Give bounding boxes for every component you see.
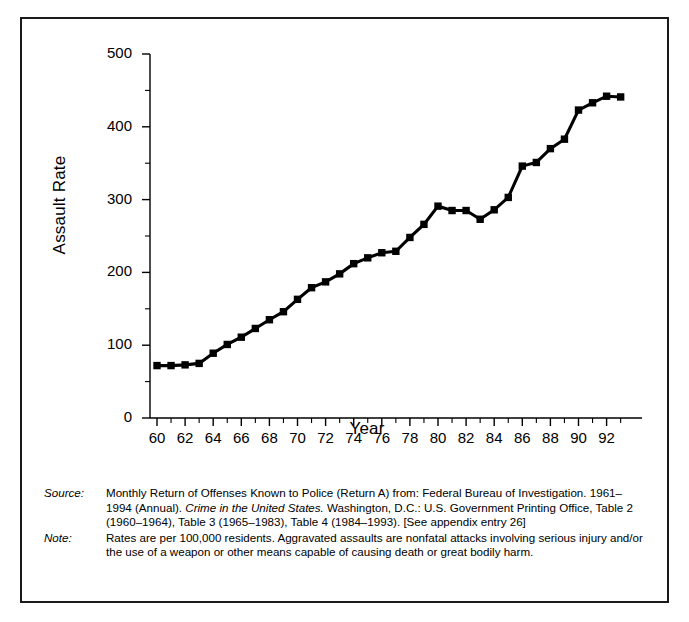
data-point-marker	[167, 362, 174, 369]
data-point-marker	[519, 162, 526, 169]
data-point-marker	[561, 135, 568, 142]
data-point-marker	[280, 308, 287, 315]
data-point-marker	[294, 296, 301, 303]
data-point-marker	[392, 248, 399, 255]
x-axis-tick-label: 76	[367, 429, 397, 446]
data-point-marker	[322, 278, 329, 285]
data-point-marker	[406, 234, 413, 241]
x-axis-tick-label: 62	[170, 429, 200, 446]
y-axis-tick-label: 200	[86, 262, 132, 279]
x-axis-tick-label: 78	[395, 429, 425, 446]
data-point-marker	[252, 325, 259, 332]
data-point-marker	[378, 249, 385, 256]
data-point-marker	[336, 270, 343, 277]
data-point-marker	[491, 206, 498, 213]
data-point-marker	[589, 99, 596, 106]
figure-frame: Assault Rate Year 0100200300400500 60626…	[20, 17, 669, 603]
x-axis-tick-label: 68	[254, 429, 284, 446]
data-point-marker	[434, 202, 441, 209]
x-axis-tick-label: 92	[592, 429, 622, 446]
chart-region: Assault Rate Year 0100200300400500 60626…	[22, 19, 667, 449]
y-axis-tick-label: 500	[86, 44, 132, 61]
y-axis-tick-label: 0	[86, 408, 132, 425]
x-axis-tick-label: 72	[311, 429, 341, 446]
y-axis-title: Assault Rate	[50, 125, 70, 285]
source-text: Monthly Return of Offenses Known to Poli…	[106, 486, 644, 530]
axis-lines	[150, 54, 642, 418]
x-axis-tick-label: 74	[339, 429, 369, 446]
explanatory-note: Note: Rates are per 100,000 residents. A…	[44, 531, 644, 560]
note-label: Note:	[44, 531, 106, 546]
data-point-marker	[308, 284, 315, 291]
x-axis-tick-label: 66	[226, 429, 256, 446]
figure-footnotes: Source: Monthly Return of Offenses Known…	[44, 486, 644, 560]
source-label: Source:	[44, 486, 106, 501]
x-axis-tick-label: 70	[283, 429, 313, 446]
y-axis-tick-label: 100	[86, 335, 132, 352]
data-point-marker	[224, 341, 231, 348]
data-point-marker	[266, 316, 273, 323]
data-point-marker	[181, 361, 188, 368]
data-point-marker	[462, 207, 469, 214]
data-point-marker	[448, 207, 455, 214]
data-point-marker	[533, 159, 540, 166]
data-point-marker	[603, 93, 610, 100]
data-point-marker	[420, 221, 427, 228]
y-axis-tick-label: 400	[86, 117, 132, 134]
x-axis-tick-label: 80	[423, 429, 453, 446]
data-line	[157, 96, 621, 365]
source-text-italic: Crime in the United States.	[185, 501, 324, 514]
x-axis-tick-label: 86	[507, 429, 537, 446]
x-axis-tick-label: 82	[451, 429, 481, 446]
source-note: Source: Monthly Return of Offenses Known…	[44, 486, 644, 530]
data-point-marker	[195, 360, 202, 367]
data-point-marker	[238, 333, 245, 340]
x-axis-tick-label: 88	[535, 429, 565, 446]
data-point-marker	[575, 106, 582, 113]
data-point-marker	[505, 194, 512, 201]
x-axis-tick-label: 84	[479, 429, 509, 446]
y-axis-ticks	[142, 54, 150, 418]
y-axis-tick-label: 300	[86, 190, 132, 207]
data-point-marker	[210, 350, 217, 357]
data-point-marker	[350, 260, 357, 267]
data-point-marker	[547, 145, 554, 152]
x-axis-tick-label: 64	[198, 429, 228, 446]
x-axis-tick-label: 60	[142, 429, 172, 446]
data-markers	[153, 93, 624, 370]
assault-rate-line-chart	[22, 19, 667, 449]
data-point-marker	[364, 254, 371, 261]
data-point-marker	[153, 362, 160, 369]
data-point-marker	[476, 216, 483, 223]
x-axis-tick-label: 90	[564, 429, 594, 446]
note-text: Rates are per 100,000 residents. Aggrava…	[106, 531, 644, 560]
data-point-marker	[617, 93, 624, 100]
